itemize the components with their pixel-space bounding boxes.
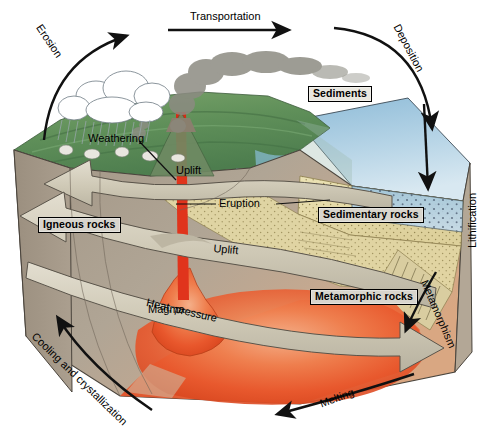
label-sedimentary-rocks: Sedimentary rocks [318, 207, 424, 223]
label-magma: Magma [148, 303, 185, 315]
label-lithification: Lithification [466, 193, 478, 248]
label-igneous-rocks: Igneous rocks [38, 217, 121, 233]
label-metamorphic-rocks: Metamorphic rocks [310, 289, 418, 305]
label-eruption: Eruption [219, 197, 260, 209]
label-uplift-lower: Uplift [213, 242, 239, 256]
label-transportation: Transportation [190, 10, 261, 22]
rock-cycle-figure: Erosion Transportation Deposition Sedime… [0, 0, 480, 431]
label-sediments: Sediments [308, 86, 372, 102]
label-uplift-upper: Uplift [176, 164, 201, 176]
label-weathering: Weathering [88, 132, 144, 144]
